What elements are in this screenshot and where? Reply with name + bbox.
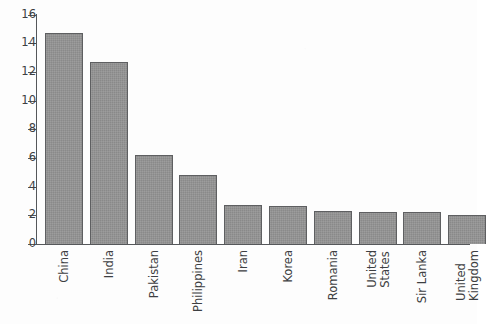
- bar-column: [90, 62, 128, 244]
- bar: [90, 62, 128, 244]
- x-axis-label-line: Pakistan: [146, 250, 160, 298]
- x-axis-label-text: Pakistan: [147, 250, 160, 298]
- x-axis-label: Korea: [269, 250, 307, 322]
- bar: [403, 212, 441, 244]
- bar-column: [403, 212, 441, 244]
- x-axis-label: Pakistan: [135, 250, 173, 322]
- x-axis-label-text: India: [103, 250, 116, 278]
- x-axis-label-text: UnitedStates: [365, 250, 390, 288]
- x-axis-label-line: India: [102, 250, 116, 278]
- x-axis-label-line: States: [378, 250, 391, 288]
- x-axis-label-text: Philippines: [192, 250, 205, 312]
- x-axis-label-text: Iran: [237, 250, 250, 272]
- x-axis-label: UnitedKingdom: [448, 250, 486, 322]
- bar-column: [224, 205, 262, 244]
- bar: [359, 212, 397, 244]
- bar: [135, 155, 173, 244]
- bar: [45, 33, 83, 244]
- x-axis-label: UnitedStates: [359, 250, 397, 322]
- bar-column: [45, 33, 83, 244]
- x-axis-label-line: Korea: [281, 250, 295, 283]
- x-axis-label-text: China: [58, 250, 71, 283]
- x-axis-label-text: Romania: [327, 250, 340, 300]
- bar-column: [269, 206, 307, 244]
- bar: [314, 211, 352, 244]
- bar: [269, 206, 307, 244]
- x-axis-label: Sir Lanka: [403, 250, 441, 322]
- x-axis-label-line: Kingdom: [467, 250, 480, 301]
- bar-column: [359, 212, 397, 244]
- x-axis-label-line: United: [364, 250, 378, 288]
- bar-column: [314, 211, 352, 244]
- x-axis-label-line: Sir Lanka: [415, 250, 429, 303]
- x-axis-label-line: China: [57, 250, 71, 283]
- x-axis-label-line: Romania: [326, 250, 340, 300]
- x-axis-label: Iran: [224, 250, 262, 322]
- x-axis-label-line: Iran: [236, 250, 250, 272]
- bar-column: [448, 215, 486, 244]
- bar: [448, 215, 486, 244]
- x-axis-label-text: UnitedKingdom: [455, 250, 480, 301]
- bar-column: [179, 175, 217, 244]
- x-axis-label: India: [90, 250, 128, 322]
- x-axis-label: Philippines: [179, 250, 217, 322]
- x-axis-label: Romania: [314, 250, 352, 322]
- x-axis-label-text: Korea: [282, 250, 295, 283]
- x-axis-label-line: Philippines: [191, 250, 205, 312]
- bar-column: [135, 155, 173, 244]
- bar: [224, 205, 262, 244]
- bar: [179, 175, 217, 244]
- x-axis-label: China: [45, 250, 83, 322]
- x-axis-label-text: Sir Lanka: [416, 250, 429, 303]
